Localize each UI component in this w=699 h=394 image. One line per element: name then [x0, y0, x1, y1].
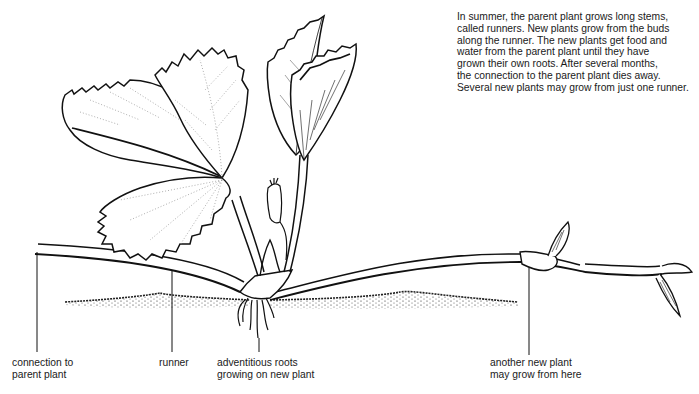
leaf-bottom — [98, 177, 230, 260]
flower-bud — [267, 178, 287, 260]
label-line: growing on new plant — [217, 369, 314, 381]
label-connection-to-parent: connection to parent plant — [12, 357, 73, 381]
description-line: Several new plants may grow from just on… — [457, 82, 693, 94]
label-line: parent plant — [12, 369, 73, 381]
label-line: runner — [159, 357, 189, 369]
label-runner: runner — [159, 357, 189, 369]
description-line: grown their own roots. After several mon… — [457, 58, 693, 70]
description-text: In summer, the parent plant grows long s… — [457, 11, 693, 94]
label-line: may grow from here — [490, 369, 582, 381]
label-line: connection to — [12, 357, 73, 369]
label-another-new-plant: another new plant may grow from here — [490, 357, 582, 381]
description-line: called runners. New plants grow from the… — [457, 23, 693, 35]
description-line: water from the parent plant until they h… — [457, 46, 693, 58]
description-line: In summer, the parent plant grows long s… — [457, 11, 693, 23]
label-line: adventitious roots — [217, 357, 314, 369]
description-line: along the runner. The new plants get foo… — [457, 35, 693, 47]
description-line: the connection to the parent plant dies … — [457, 70, 693, 82]
label-adventitious-roots: adventitious roots growing on new plant — [217, 357, 314, 381]
label-line: another new plant — [490, 357, 582, 369]
